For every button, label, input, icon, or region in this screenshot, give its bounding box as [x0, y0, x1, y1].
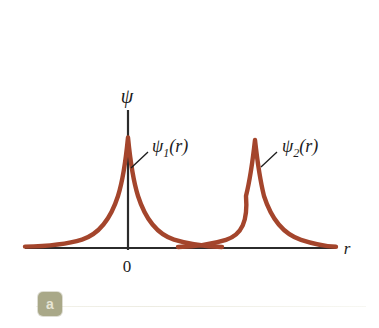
psi2-curve	[178, 140, 336, 247]
wavefunction-plot: ψ r 0 ψ1(r) ψ2(r)	[0, 0, 379, 328]
psi1-annotation-label: ψ1(r)	[152, 136, 188, 160]
svg-text:ψ1(r): ψ1(r)	[152, 136, 188, 160]
psi2-annotation-label: ψ2(r)	[282, 136, 318, 160]
svg-text:ψ2(r): ψ2(r)	[282, 136, 318, 160]
psi1-leader-line	[131, 152, 148, 168]
psi2-leader-line	[261, 152, 277, 167]
psi1-argument: (r)	[169, 136, 188, 157]
psi2-argument: (r)	[299, 136, 318, 157]
psi1-curve	[25, 138, 222, 248]
caption-badge-letter: a	[46, 297, 54, 311]
origin-tick-label: 0	[123, 257, 132, 276]
caption-divider	[36, 306, 366, 307]
y-axis-label: ψ	[121, 85, 134, 108]
caption-badge: a	[38, 292, 62, 316]
figure-root: ψ r 0 ψ1(r) ψ2(r) a	[0, 0, 379, 328]
psi1-symbol: ψ	[152, 136, 164, 156]
x-axis-label: r	[344, 239, 351, 258]
psi2-symbol: ψ	[282, 136, 294, 156]
